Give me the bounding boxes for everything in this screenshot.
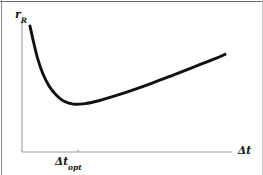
x-axis-tick-label-subscript: opt bbox=[68, 163, 82, 172]
y-axis-label-subscript: R bbox=[21, 16, 27, 25]
x-axis-label: Δt bbox=[238, 145, 251, 156]
y-axis-label: rR bbox=[15, 9, 27, 23]
figure-panel: rR Δt Δtopt bbox=[0, 0, 263, 175]
x-axis-tick-label: Δtopt bbox=[55, 156, 82, 170]
error-curve bbox=[30, 26, 225, 104]
x-axis-tick-label-base: Δt bbox=[55, 155, 68, 167]
plot-canvas bbox=[0, 0, 263, 175]
y-axis-label-base: r bbox=[15, 8, 21, 21]
